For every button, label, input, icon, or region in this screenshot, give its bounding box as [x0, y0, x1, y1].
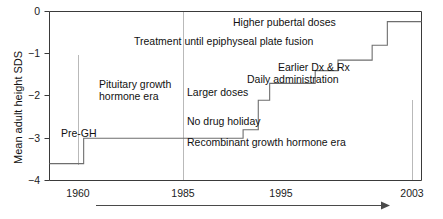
y-tick-label-minus4: −4: [18, 175, 40, 186]
y-axis-ticks: [45, 12, 50, 181]
timeline-arrow: [96, 202, 390, 210]
annotation-no-drug-holiday: No drug holiday: [187, 116, 261, 128]
y-tick-label-minus1: −1: [18, 48, 40, 59]
x-tick-label-1995: 1995: [257, 188, 305, 199]
x-tick-label-1960: 1960: [54, 188, 102, 199]
timeline-arrow-head: [381, 202, 390, 210]
annotation-treatment-until-fusion: Treatment until epiphyseal plate fusion: [134, 36, 313, 48]
annotation-daily-administration: Daily administration: [247, 74, 339, 86]
y-axis-title: Mean adult height SDS: [12, 51, 24, 164]
y-tick-label-minus3: −3: [18, 133, 40, 144]
annotation-pituitary-growth: Pituitary growth: [99, 79, 171, 91]
x-tick-label-1985: 1985: [159, 188, 207, 199]
chart-container: Mean adult height SDS 0 −1 −2 −3 −4 1960…: [0, 0, 443, 219]
x-tick-label-2003: 2003: [388, 188, 436, 199]
y-tick-label-minus2: −2: [18, 90, 40, 101]
annotation-earlier-dx-rx: Earlier Dx & Rx: [278, 62, 350, 74]
annotation-pre-gh: Pre-GH: [61, 128, 97, 140]
annotation-recombinant-era: Recombinant growth hormone era: [187, 137, 346, 149]
y-tick-label-0: 0: [18, 6, 40, 17]
annotation-higher-pubertal-doses: Higher pubertal doses: [233, 17, 336, 29]
annotation-larger-doses: Larger doses: [187, 87, 248, 99]
annotation-hormone-era: hormone era: [99, 91, 159, 103]
